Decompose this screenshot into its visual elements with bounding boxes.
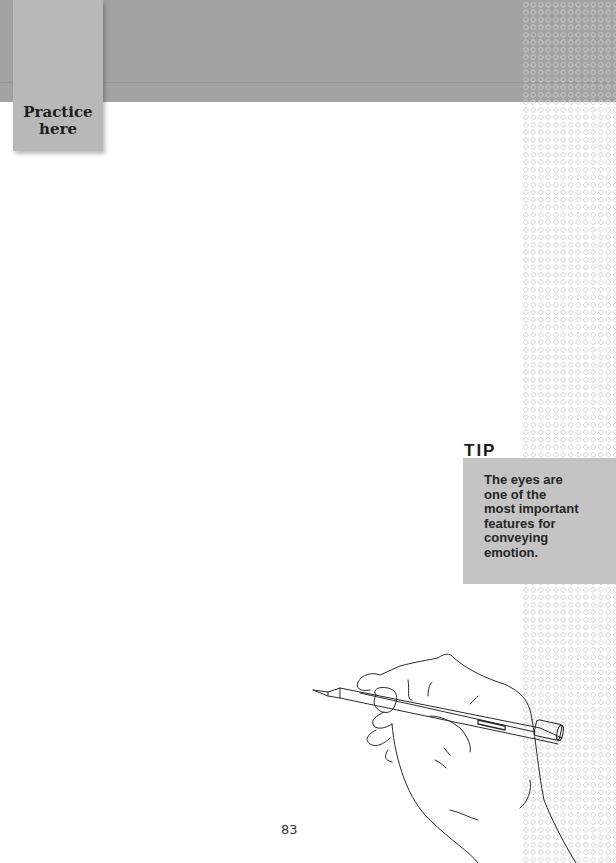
practice-here-tab: Practice here (13, 0, 103, 151)
tip-text: The eyes are one of the most important f… (484, 473, 608, 561)
tip-box: The eyes are one of the most important f… (463, 458, 616, 584)
page-number: 83 (281, 822, 298, 837)
dotted-margin-pattern-header (521, 0, 616, 102)
practice-here-label: Practice here (23, 104, 92, 138)
hand-holding-pencil-icon (300, 640, 616, 863)
